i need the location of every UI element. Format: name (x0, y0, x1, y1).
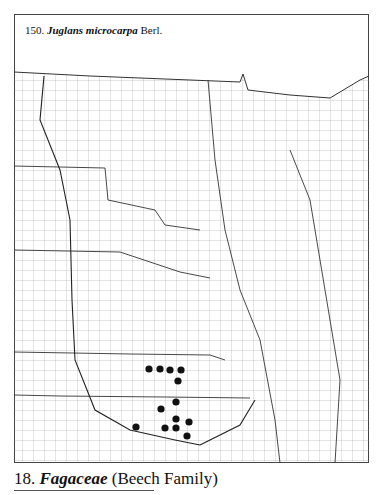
section-number: 18. (14, 469, 35, 488)
section-heading: 18. Fagaceae (Beech Family) (14, 469, 218, 489)
divider (14, 490, 154, 491)
distribution-map (14, 14, 369, 463)
family-common-name: (Beech Family) (112, 469, 218, 488)
county-grid (14, 70, 369, 463)
family-name: Fagaceae (40, 469, 108, 488)
